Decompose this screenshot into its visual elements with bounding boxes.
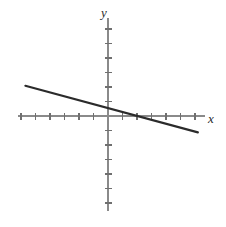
plotted-line — [25, 86, 198, 133]
graph-svg: x y — [0, 0, 226, 227]
coordinate-graph-figure: x y — [0, 0, 226, 227]
line-segment — [25, 86, 198, 133]
x-axis-label: x — [207, 111, 214, 126]
y-axis-label: y — [99, 5, 107, 20]
